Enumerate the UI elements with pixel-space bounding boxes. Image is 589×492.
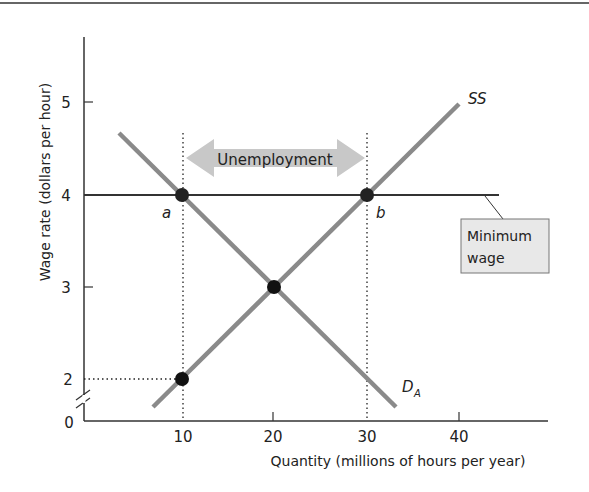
labor-market-chart: 5 4 3 2 0 10 20 30 40 Quantity (millions… [0, 0, 589, 492]
x-tick-label-10: 10 [173, 428, 192, 446]
callout-line-2: wage [467, 250, 505, 266]
point-a-label: a [162, 204, 171, 222]
point-a [175, 188, 189, 202]
y-tick-label-5: 5 [61, 94, 71, 112]
y-axis-title: Wage rate (dollars per hour) [37, 83, 53, 281]
y-tick-label-4: 4 [61, 187, 71, 205]
unemployment-arrow: Unemployment [186, 139, 365, 177]
point-b [360, 188, 374, 202]
origin-label: 0 [64, 414, 74, 432]
supply-curve-label: SS [468, 90, 487, 108]
point-b-label: b [376, 204, 386, 222]
axis-break-icon [76, 390, 90, 408]
x-axis-title: Quantity (millions of hours per year) [271, 453, 526, 469]
unemployment-label: Unemployment [217, 151, 332, 169]
svg-text:A: A [413, 388, 421, 399]
y-tick-label-2: 2 [63, 371, 73, 389]
demand-curve [119, 133, 396, 407]
minimum-wage-callout: Minimum wage [461, 196, 549, 273]
equilibrium-point [267, 280, 281, 294]
x-tick-label-30: 30 [357, 428, 376, 446]
callout-line-1: Minimum [467, 228, 532, 244]
point-q10-w2 [175, 372, 189, 386]
demand-curve-label: D A [402, 378, 421, 399]
y-tick-label-3: 3 [61, 279, 71, 297]
x-tick-label-40: 40 [449, 428, 468, 446]
callout-leader [485, 196, 503, 219]
svg-text:D: D [402, 378, 414, 396]
x-tick-label-20: 20 [263, 428, 282, 446]
